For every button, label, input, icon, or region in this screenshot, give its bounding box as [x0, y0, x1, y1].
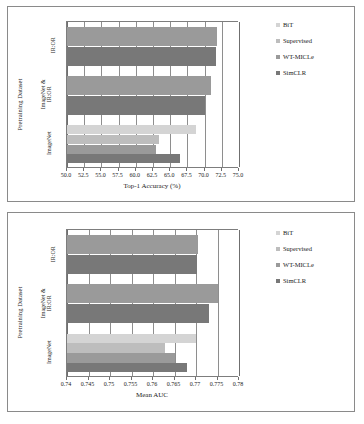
legend-item-simclr[interactable]: SimCLR: [276, 277, 314, 284]
legend-item-bit[interactable]: BiT: [276, 229, 314, 236]
x-tick-mark: [217, 377, 218, 380]
bar-wt-micle: [67, 145, 156, 154]
x-tick-label: 0.76: [147, 381, 158, 387]
figure-mean-auc: Pretraining DatasetIR:ORImageNet &IR:ORI…: [8, 213, 354, 411]
x-tick-mark: [238, 377, 239, 380]
x-tick-mark: [88, 377, 89, 380]
category-label-imagenet: ImageNet: [27, 328, 61, 377]
x-axis-title: Mean AUC: [66, 391, 238, 399]
legend-item-label: BiT: [283, 21, 293, 28]
x-tick-label: 0.74: [61, 381, 72, 387]
category-labels: IR:ORImageNet &IR:ORImageNet: [27, 21, 61, 168]
x-tick-label: 60.0: [130, 172, 141, 178]
legend-swatch-icon: [276, 231, 280, 235]
x-tick-mark: [221, 168, 222, 171]
bar-wt-micle: [67, 353, 175, 362]
legend-item-simclr[interactable]: SimCLR: [276, 69, 314, 76]
x-tick-mark: [83, 168, 84, 171]
x-axis-title: Top-1 Accuracy (%): [66, 182, 238, 190]
bar-simclr: [67, 363, 187, 372]
x-tick-label: 75.0: [233, 172, 244, 178]
x-tick-mark: [135, 168, 136, 171]
y-axis-title-label: Pretraining Dataset: [17, 78, 24, 130]
x-tick-label: 50.0: [61, 172, 72, 178]
bar-simclr: [67, 255, 197, 274]
x-tick-mark: [195, 377, 196, 380]
x-tick-mark: [100, 168, 101, 171]
legend-item-label: SimCLR: [283, 69, 306, 76]
legend-item-supervised[interactable]: Supervised: [276, 245, 314, 252]
category-label-text: IR:OR: [50, 246, 56, 262]
legend-swatch-icon: [276, 39, 280, 43]
x-tick-label: 65.0: [164, 172, 175, 178]
y-axis-title: Pretraining Dataset: [13, 7, 27, 201]
gridline: [222, 22, 223, 167]
legend-swatch-icon: [276, 23, 280, 27]
legend-swatch-icon: [276, 71, 280, 75]
bar-wt-micle: [67, 27, 217, 46]
bar-bit: [67, 334, 196, 343]
legend-item-label: Supervised: [283, 37, 312, 44]
category-label-ir-or: IR:OR: [27, 229, 61, 278]
legend-item-wt-micle[interactable]: WT-MICLe: [276, 53, 314, 60]
legend-swatch-icon: [276, 247, 280, 251]
x-tick-mark: [204, 168, 205, 171]
x-tick-mark: [118, 168, 119, 171]
category-labels: IR:ORImageNet &IR:ORImageNet: [27, 229, 61, 377]
x-tick-label: 0.745: [81, 381, 95, 387]
figure-top-1-accuracy: Pretraining DatasetIR:ORImageNet &IR:ORI…: [8, 7, 354, 201]
bar-bit: [67, 125, 196, 134]
plot-area: [66, 21, 238, 168]
x-tick-label: 0.75: [104, 381, 115, 387]
x-tick-label: 0.755: [124, 381, 138, 387]
x-tick-label: 72.5: [216, 172, 227, 178]
x-tick-mark: [186, 168, 187, 171]
category-label-text: ImageNet: [46, 340, 52, 364]
legend: BiTSupervisedWT-MICLeSimCLR: [276, 21, 314, 85]
x-tick-mark: [109, 377, 110, 380]
y-axis-title: Pretraining Dataset: [13, 213, 27, 411]
x-tick-mark: [66, 377, 67, 380]
category-label-text: ImageNet &IR:OR: [40, 288, 53, 318]
y-axis-title-label: Pretraining Dataset: [17, 286, 24, 338]
legend-item-label: BiT: [283, 229, 293, 236]
bar-simclr: [67, 96, 205, 115]
chart-panel-top-1-accuracy: Pretraining DatasetIR:ORImageNet &IR:ORI…: [7, 6, 355, 202]
x-tick-label: 0.78: [233, 381, 244, 387]
x-tick-label: 70.0: [198, 172, 209, 178]
bar-simclr: [67, 47, 216, 66]
bar-simclr: [67, 304, 209, 323]
legend-item-label: SimCLR: [283, 277, 306, 284]
bar-simclr: [67, 154, 180, 163]
bar-supervised: [67, 135, 159, 144]
category-label-text: ImageNet: [46, 132, 52, 156]
x-tick-mark: [152, 168, 153, 171]
category-label-text: IR:OR: [50, 37, 56, 53]
plot-area: [66, 229, 238, 377]
legend-swatch-icon: [276, 279, 280, 283]
x-tick-mark: [238, 168, 239, 171]
x-tick-mark: [152, 377, 153, 380]
x-tick-label: 62.5: [147, 172, 158, 178]
x-tick-label: 57.5: [112, 172, 123, 178]
category-label-text: ImageNet &IR:OR: [40, 80, 53, 110]
x-tick-label: 0.775: [210, 381, 224, 387]
legend-item-wt-micle[interactable]: WT-MICLe: [276, 261, 314, 268]
legend-swatch-icon: [276, 55, 280, 59]
x-tick-label: 52.5: [78, 172, 89, 178]
category-label-imagenet-ir-or: ImageNet &IR:OR: [27, 278, 61, 327]
bar-supervised: [67, 343, 165, 352]
x-tick-mark: [174, 377, 175, 380]
gridline: [218, 230, 219, 376]
x-tick-label: 0.77: [190, 381, 201, 387]
legend-item-label: Supervised: [283, 245, 312, 252]
legend-item-label: WT-MICLe: [283, 261, 314, 268]
chart-panel-mean-auc: Pretraining DatasetIR:ORImageNet &IR:ORI…: [7, 212, 355, 412]
x-tick-label: 0.765: [167, 381, 181, 387]
legend-swatch-icon: [276, 263, 280, 267]
legend-item-supervised[interactable]: Supervised: [276, 37, 314, 44]
x-tick-label: 55.0: [95, 172, 106, 178]
legend-item-bit[interactable]: BiT: [276, 21, 314, 28]
x-tick-mark: [131, 377, 132, 380]
gridline: [239, 230, 240, 376]
